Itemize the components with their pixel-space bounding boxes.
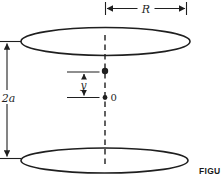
diagram-canvas: R 2a y 0 bbox=[0, 0, 222, 180]
offset-label: y bbox=[80, 79, 88, 91]
separation-label: 2a bbox=[1, 92, 16, 105]
origin-label: 0 bbox=[111, 92, 117, 103]
separation-dimension: 2a bbox=[0, 42, 21, 159]
field-point-dot bbox=[102, 68, 108, 74]
offset-dimension: y bbox=[67, 72, 100, 98]
radius-label: R bbox=[141, 3, 150, 16]
origin-point-dot bbox=[103, 95, 108, 100]
physics-figure-two-rings: R 2a y 0 FIGU bbox=[0, 0, 222, 180]
top-ring bbox=[21, 28, 190, 56]
radius-dimension: R bbox=[106, 2, 187, 16]
figure-caption: FIGU bbox=[199, 166, 221, 176]
